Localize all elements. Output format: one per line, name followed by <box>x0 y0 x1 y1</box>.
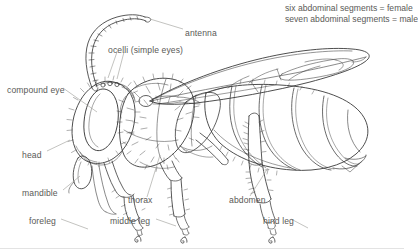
label-foreleg: foreleg <box>29 216 56 227</box>
note-line-male: seven abdominal segments = male <box>285 14 418 25</box>
thorax <box>117 73 199 172</box>
ventral-detail <box>140 150 213 168</box>
label-hind-leg: hind leg <box>263 216 294 227</box>
leader-thorax <box>147 155 160 197</box>
label-abdomen: abdomen <box>229 195 266 206</box>
label-thorax: thorax <box>128 195 153 206</box>
label-compound-eye: compound eye <box>7 85 65 96</box>
middle-leg <box>160 161 190 243</box>
abdominal-segment-note: six abdominal segments = female seven ab… <box>285 3 418 26</box>
leader-foreleg <box>61 219 88 229</box>
label-antenna: antenna <box>185 28 217 39</box>
label-ocelli: ocelli (simple eyes) <box>108 45 183 56</box>
leader-middle-leg <box>156 219 176 226</box>
leader-ocelli-a <box>108 52 117 78</box>
label-middle-leg: middle leg <box>110 216 150 227</box>
leader-ocelli-b <box>117 52 124 79</box>
head <box>67 76 140 214</box>
label-mandible: mandible <box>22 188 58 199</box>
leader-head <box>47 140 70 151</box>
leader-antenna <box>150 19 183 29</box>
leader-compound-eye <box>63 88 97 112</box>
label-head: head <box>22 150 42 161</box>
leader-abdomen <box>250 168 268 196</box>
abdomen <box>205 79 368 175</box>
note-line-female: six abdominal segments = female <box>285 3 418 14</box>
